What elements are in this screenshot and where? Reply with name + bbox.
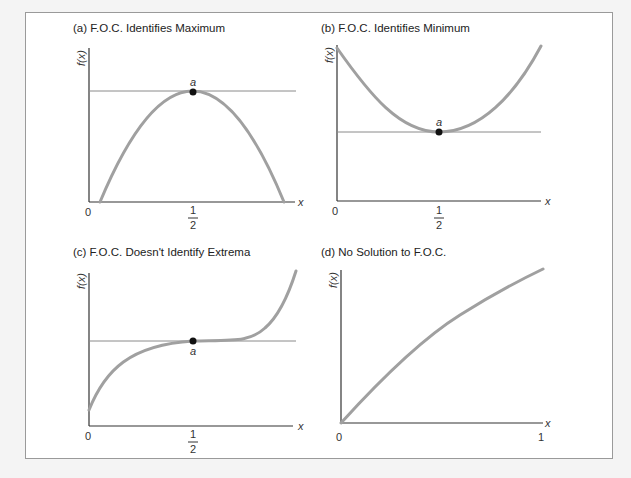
panel-c-tick-half-den: 2 <box>190 443 196 455</box>
panel-a-point <box>190 89 197 96</box>
panel-d-title: (d) No Solution to F.O.C. <box>321 246 446 258</box>
panel-a-xlabel: x <box>297 196 304 208</box>
panel-a-title: (a) F.O.C. Identifies Maximum <box>73 22 225 34</box>
panel-a: (a) F.O.C. Identifies Maximum f(x) a x 0… <box>73 22 304 231</box>
panel-d-tick-0: 0 <box>336 431 342 443</box>
panel-a-tick-half-den: 2 <box>190 219 196 231</box>
panel-b: (b) F.O.C. Identifies Minimum f(x) a x 0… <box>321 22 551 231</box>
panel-c-tick-half-num: 1 <box>190 428 196 440</box>
plots-canvas: (a) F.O.C. Identifies Maximum f(x) a x 0… <box>0 0 631 478</box>
panel-a-tick-half-num: 1 <box>190 204 196 216</box>
panel-d-tick-1: 1 <box>538 431 544 443</box>
panel-b-tick-0: 0 <box>332 205 338 217</box>
panel-c-title: (c) F.O.C. Doesn't Identify Extrema <box>73 246 251 258</box>
panel-d-ylabel: f(x) <box>327 272 339 288</box>
panel-b-ylabel: f(x) <box>323 47 335 63</box>
panel-b-point <box>436 129 443 136</box>
panel-a-curve <box>100 91 284 202</box>
panel-a-ylabel: f(x) <box>75 50 87 66</box>
panel-b-tick-half-num: 1 <box>436 204 442 216</box>
panel-d-xlabel: x <box>544 417 551 429</box>
panel-c-point <box>190 338 197 345</box>
panel-b-xlabel: x <box>544 195 551 207</box>
panel-c-xlabel: x <box>297 420 304 432</box>
panel-c-tick-0: 0 <box>85 430 91 442</box>
panel-a-point-label: a <box>190 76 196 88</box>
panel-c: (c) F.O.C. Doesn't Identify Extrema f(x)… <box>73 246 304 455</box>
panel-d-curve <box>341 269 543 423</box>
panel-c-ylabel: f(x) <box>75 273 87 289</box>
panel-b-tick-half-den: 2 <box>436 219 442 231</box>
panel-d: (d) No Solution to F.O.C. f(x) x 0 1 <box>321 246 551 443</box>
panel-c-point-label: a <box>190 345 196 357</box>
panel-b-title: (b) F.O.C. Identifies Minimum <box>321 22 470 34</box>
panel-b-point-label: a <box>436 116 442 128</box>
panel-a-tick-0: 0 <box>85 206 91 218</box>
